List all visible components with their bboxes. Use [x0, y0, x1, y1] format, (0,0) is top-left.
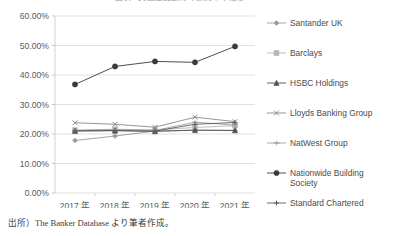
y-axis-tick-label: 50.00%	[20, 41, 50, 51]
data-point-marker	[274, 201, 279, 206]
data-point-marker	[232, 44, 237, 49]
x-axis-tick-label: 2017 年	[60, 200, 91, 208]
legend-marker-icon	[266, 198, 287, 208]
x-axis-tick-label: 2018 年	[100, 200, 131, 208]
y-axis-tick-label: 60.00%	[20, 11, 50, 21]
x-axis-tick-label: 2019 年	[140, 200, 171, 208]
legend-label: Lloyds Banking Group	[290, 108, 372, 118]
chart-figure: 図表6 英国主要銀行の預貸率の推移 0.00%10.00%20.00%30.00…	[0, 0, 393, 236]
y-axis-tick-label: 20.00%	[20, 129, 50, 139]
line-chart-svg: 0.00%10.00%20.00%30.00%40.00%50.00%60.00…	[0, 8, 268, 208]
legend-marker-icon	[266, 48, 287, 58]
series-line	[75, 117, 235, 127]
y-axis-tick-label: 30.00%	[20, 100, 50, 110]
legend-label: NatWest Group	[290, 138, 348, 148]
legend-marker-icon	[266, 168, 287, 178]
source-note: 出所）The Banker Database より筆者作成。	[8, 218, 174, 229]
data-point-marker	[113, 134, 118, 139]
legend-marker-icon	[266, 138, 287, 148]
data-point-marker	[274, 21, 279, 26]
y-axis-tick-label: 0.00%	[25, 188, 50, 198]
legend-label: Nationwide Building Society	[290, 168, 364, 188]
legend-label: HSBC Holdings	[290, 78, 348, 88]
legend-label: Santander UK	[290, 18, 343, 28]
legend-item[interactable]: HSBC Holdings	[266, 78, 348, 88]
data-point-marker	[152, 59, 157, 64]
legend-marker-icon	[266, 18, 287, 28]
data-series	[73, 115, 238, 130]
chart-title: 図表6 英国主要銀行の預貸率の推移	[70, 0, 290, 2]
plot-area: 0.00%10.00%20.00%30.00%40.00%50.00%60.00…	[0, 8, 268, 208]
data-series	[72, 44, 237, 87]
data-point-marker	[274, 141, 280, 146]
x-axis-tick-label: 2021 年	[220, 200, 251, 208]
y-axis-tick-label: 10.00%	[20, 159, 50, 169]
legend-marker-icon	[266, 108, 287, 118]
legend-item[interactable]: Santander UK	[266, 18, 343, 28]
data-point-marker	[112, 64, 117, 69]
series-line	[75, 46, 235, 84]
legend-item[interactable]: Nationwide Building Society	[266, 168, 364, 188]
chart-legend: Santander UKBarclaysHSBC HoldingsLloyds …	[266, 12, 393, 212]
data-point-marker	[274, 51, 279, 56]
legend-item[interactable]: Lloyds Banking Group	[266, 108, 372, 118]
data-point-marker	[274, 170, 279, 175]
x-axis-tick-label: 2020 年	[180, 200, 211, 208]
y-axis-tick-label: 40.00%	[20, 70, 50, 80]
legend-marker-icon	[266, 78, 287, 88]
legend-label: Standard Chartered	[290, 198, 364, 208]
data-point-marker	[72, 82, 77, 87]
legend-item[interactable]: Barclays	[266, 48, 322, 58]
data-point-marker	[192, 60, 197, 65]
legend-item[interactable]: NatWest Group	[266, 138, 348, 148]
legend-label: Barclays	[290, 48, 322, 58]
data-point-marker	[73, 138, 78, 143]
legend-item[interactable]: Standard Chartered	[266, 198, 364, 208]
